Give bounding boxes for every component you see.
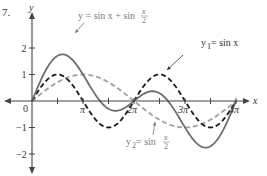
y-axis-arrow-icon	[29, 12, 35, 19]
x-axis-left-arrow-icon	[4, 98, 11, 104]
x-tick-label: 4π	[229, 104, 240, 115]
y-tick-label: 2	[22, 43, 27, 54]
y2-label-frac-denominator: 2	[164, 142, 168, 151]
origin-label: 0	[23, 103, 28, 114]
x-axis-label: x	[252, 95, 258, 106]
y2-label-leader-arrowhead-icon	[153, 122, 156, 126]
y-tick-label: −1	[16, 122, 27, 133]
sinusoid-sum-chart: xy0 π2π3π4π21−1−2 y = sin x + sin x2y1 =…	[0, 0, 267, 176]
x-axis-arrow-icon	[243, 98, 250, 104]
sum-label-frac-numerator: x	[141, 7, 146, 16]
y2-label: y	[126, 136, 131, 147]
y2-label-rest: = sin	[136, 136, 156, 147]
curve-annotations: y = sin x + sin x2y1 = sin xy2 = sin x2	[75, 7, 238, 151]
y-tick-label: −2	[16, 149, 27, 160]
axes: xy0	[4, 2, 258, 174]
y1-label-rest: = sin x	[211, 37, 238, 48]
sum-curve-label: y = sin x + sin	[78, 10, 135, 21]
y-tick-label: 1	[22, 69, 27, 80]
y1-label: y	[201, 37, 206, 48]
y2-label-frac-numerator: x	[163, 133, 168, 142]
y-axis-label: y	[28, 2, 34, 13]
x-tick-label: 2π	[127, 104, 138, 115]
x-tick-label: 3π	[177, 104, 189, 115]
y-axis-down-arrow-icon	[29, 167, 35, 174]
sum-label-frac-denominator: 2	[142, 16, 146, 25]
